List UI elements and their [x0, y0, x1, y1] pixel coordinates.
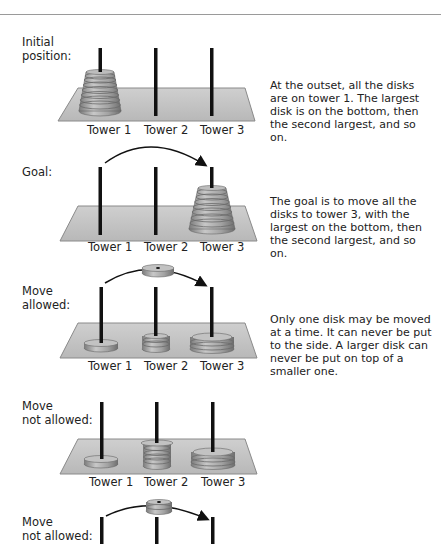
peg-tower-3	[211, 402, 215, 452]
peg-tower-2	[154, 167, 158, 235]
panel-label-goal: Goal:	[22, 165, 52, 179]
panel-label-initial: Initial position:	[22, 35, 71, 63]
moving-disks	[146, 500, 172, 515]
move-arrow	[105, 147, 205, 165]
label-line: position:	[22, 49, 71, 63]
panel-move-allowed	[60, 265, 257, 359]
panel-label-move-not-allowed: Move not allowed:	[22, 399, 93, 427]
peg-tower-1	[100, 287, 104, 343]
peg-tower-1	[99, 48, 103, 72]
panel-move-not-allowed-2	[100, 500, 215, 544]
panel-goal	[60, 147, 257, 241]
tower-2-label: Tower 2	[144, 359, 188, 373]
label-line: Move	[22, 284, 70, 298]
tower-2-label: Tower 2	[144, 123, 188, 137]
description-move-allowed: Only one disk may be moved at a time. It…	[270, 313, 435, 378]
panel-label-move-not-allowed-2: Move not allowed:	[22, 515, 93, 543]
disks-tower-2	[141, 440, 173, 470]
peg-tower-2	[154, 287, 158, 336]
panel-label-move-allowed: Move allowed:	[22, 284, 70, 312]
tower-2-label: Tower 2	[144, 240, 188, 254]
peg-tower-3	[210, 48, 214, 116]
peg-tower-1	[100, 402, 104, 459]
label-line: Initial	[22, 35, 71, 49]
disk-stack-tower-3	[189, 186, 235, 235]
label-line: Move	[22, 515, 93, 529]
peg-tower-1	[100, 517, 104, 544]
tower-1-label: Tower 1	[88, 359, 132, 373]
label-line: allowed:	[22, 298, 70, 312]
moving-disk	[142, 265, 174, 278]
peg-tower-3	[210, 287, 214, 337]
tower-2-label: Tower 2	[144, 475, 188, 489]
description-goal: The goal is to move all the disks to tow…	[270, 195, 435, 260]
label-line: not allowed:	[22, 529, 93, 543]
label-line: Goal:	[22, 165, 52, 179]
description-initial: At the outset, all the disks are on towe…	[270, 79, 435, 144]
peg-tower-2	[155, 402, 159, 443]
label-line: Move	[22, 399, 93, 413]
tower-1-label: Tower 1	[87, 123, 131, 137]
peg-tower-2	[154, 48, 158, 116]
tower-3-label: Tower 3	[200, 359, 244, 373]
tower-1-label: Tower 1	[88, 240, 132, 254]
tower-1-label: Tower 1	[89, 475, 133, 489]
label-line: not allowed:	[22, 413, 93, 427]
tower-3-label: Tower 3	[201, 475, 245, 489]
peg-tower-3	[210, 167, 214, 188]
peg-tower-1	[99, 167, 103, 235]
panel-initial	[58, 48, 255, 121]
peg-tower-3	[211, 517, 215, 544]
tower-3-label: Tower 3	[200, 240, 244, 254]
disk-stack-tower-1	[79, 70, 121, 117]
peg-tower-2	[155, 517, 159, 544]
disks-tower-2	[142, 334, 170, 353]
tower-3-label: Tower 3	[200, 123, 244, 137]
